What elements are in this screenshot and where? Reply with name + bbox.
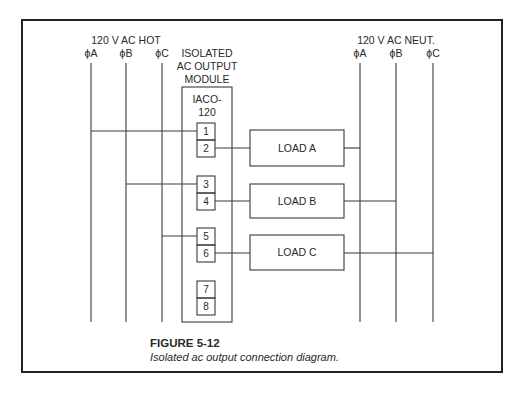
svg-text:LOAD A: LOAD A — [278, 142, 316, 154]
terminal-3: 3 — [197, 176, 215, 193]
hot-phase-c-label: ϕC — [155, 47, 169, 59]
terminal-8: 8 — [197, 298, 215, 315]
svg-text:5: 5 — [203, 231, 209, 242]
figure-number: FIGURE 5-12 — [150, 337, 220, 349]
svg-text:3: 3 — [203, 179, 209, 190]
svg-text:2: 2 — [203, 143, 209, 154]
figure-frame — [22, 20, 502, 372]
connection-diagram: 120 V AC HOT ϕA ϕB ϕC 120 V AC NEUT. ϕA … — [0, 0, 522, 395]
load-a-box: LOAD A — [250, 130, 344, 166]
module-model-line-2: 120 — [198, 106, 216, 118]
svg-text:6: 6 — [203, 248, 209, 259]
module-label-line-3: MODULE — [185, 73, 230, 85]
svg-text:7: 7 — [203, 284, 209, 295]
module-model-line-1: IACO- — [192, 93, 222, 105]
load-b-box: LOAD B — [250, 184, 344, 218]
svg-text:8: 8 — [203, 301, 209, 312]
hot-phase-b-label: ϕB — [120, 47, 133, 59]
module-label-line-2: AC OUTPUT — [177, 60, 238, 72]
terminal-5: 5 — [197, 228, 215, 245]
neutral-bus-title: 120 V AC NEUT. — [357, 34, 435, 46]
svg-text:4: 4 — [203, 196, 209, 207]
terminal-6: 6 — [197, 245, 215, 262]
neutral-phase-c-label: ϕC — [426, 47, 440, 59]
svg-text:LOAD C: LOAD C — [277, 246, 317, 258]
svg-text:1: 1 — [203, 126, 209, 137]
terminal-7: 7 — [197, 281, 215, 298]
terminal-2: 2 — [197, 140, 215, 157]
svg-text:LOAD B: LOAD B — [278, 195, 317, 207]
figure-caption: Isolated ac output connection diagram. — [150, 351, 339, 363]
neutral-phase-b-label: ϕB — [390, 47, 403, 59]
neutral-phase-a-label: ϕA — [354, 47, 367, 59]
hot-phase-a-label: ϕA — [85, 47, 98, 59]
hot-bus-title: 120 V AC HOT — [91, 34, 161, 46]
module-label-line-1: ISOLATED — [181, 47, 233, 59]
load-c-box: LOAD C — [250, 235, 344, 270]
terminal-1: 1 — [197, 123, 215, 140]
terminal-4: 4 — [197, 193, 215, 210]
